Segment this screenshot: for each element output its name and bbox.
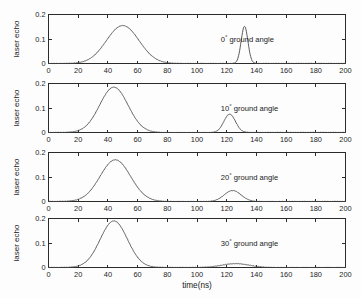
x-tick-label: 200 (339, 135, 351, 144)
x-tick-label: 60 (133, 66, 141, 75)
x-tick-label: 200 (339, 204, 351, 213)
x-tick-label: 0 (46, 204, 50, 213)
x-axis-label: time(ns) (182, 281, 212, 290)
x-tick-label: 0 (46, 66, 50, 75)
y-tick-label: 0 (41, 59, 45, 68)
x-tick-label: 200 (339, 66, 351, 75)
x-tick-label: 160 (280, 66, 292, 75)
panel-annotation: 0° ground angle (221, 33, 274, 43)
laser-echo-multipanel-chart: 02040608010012014016018020000.10.20° gro… (0, 0, 361, 298)
y-tick-label: 0 (41, 263, 45, 272)
y-tick-label: 0.2 (35, 148, 45, 157)
figure-background (0, 0, 361, 298)
x-tick-label: 120 (221, 135, 233, 144)
x-tick-label: 60 (133, 270, 141, 279)
x-tick-label: 140 (250, 270, 262, 279)
y-tick-label: 0.2 (35, 79, 45, 88)
y-tick-label: 0.2 (35, 10, 45, 19)
y-tick-label: 0.1 (35, 173, 45, 182)
x-tick-label: 180 (310, 270, 322, 279)
x-tick-label: 80 (163, 135, 171, 144)
x-tick-label: 40 (104, 270, 112, 279)
x-tick-label: 160 (280, 135, 292, 144)
x-tick-label: 180 (310, 66, 322, 75)
y-tick-label: 0 (41, 128, 45, 137)
x-tick-label: 120 (221, 66, 233, 75)
x-tick-label: 100 (191, 66, 203, 75)
x-tick-label: 0 (46, 135, 50, 144)
x-tick-label: 160 (280, 204, 292, 213)
x-tick-label: 100 (191, 270, 203, 279)
x-tick-label: 20 (74, 135, 82, 144)
x-tick-label: 180 (310, 204, 322, 213)
x-tick-label: 40 (104, 204, 112, 213)
x-tick-label: 140 (250, 204, 262, 213)
x-tick-label: 100 (191, 204, 203, 213)
y-tick-label: 0 (41, 197, 45, 206)
x-tick-label: 40 (104, 66, 112, 75)
x-tick-label: 140 (250, 66, 262, 75)
y-tick-label: 0.1 (35, 35, 45, 44)
x-tick-label: 40 (104, 135, 112, 144)
x-tick-label: 20 (74, 66, 82, 75)
x-tick-label: 140 (250, 135, 262, 144)
y-axis-label: laser echo (12, 89, 21, 126)
x-tick-label: 60 (133, 135, 141, 144)
y-tick-label: 0.1 (35, 104, 45, 113)
x-tick-label: 80 (163, 270, 171, 279)
y-axis-label: laser echo (12, 158, 21, 195)
x-tick-label: 100 (191, 135, 203, 144)
x-tick-label: 180 (310, 135, 322, 144)
x-tick-label: 80 (163, 204, 171, 213)
y-tick-label: 0.1 (35, 239, 45, 248)
x-tick-label: 120 (221, 204, 233, 213)
x-tick-label: 0 (46, 270, 50, 279)
y-axis-label: laser echo (12, 224, 21, 261)
x-tick-label: 120 (221, 270, 233, 279)
x-tick-label: 20 (74, 270, 82, 279)
x-tick-label: 60 (133, 204, 141, 213)
x-tick-label: 200 (339, 270, 351, 279)
x-tick-label: 20 (74, 204, 82, 213)
x-tick-label: 160 (280, 270, 292, 279)
y-tick-label: 0.2 (35, 214, 45, 223)
x-tick-label: 80 (163, 66, 171, 75)
y-axis-label: laser echo (12, 20, 21, 57)
